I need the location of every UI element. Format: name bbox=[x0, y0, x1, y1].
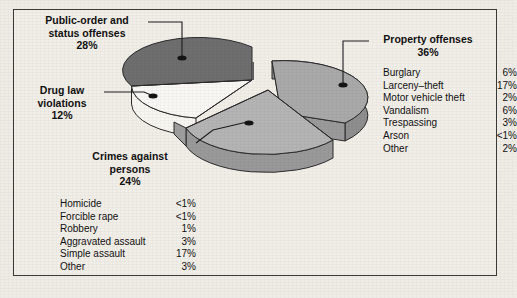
legend-persons-row-label: Homicide bbox=[60, 198, 160, 211]
label-drug-law-line1: Drug law bbox=[22, 84, 102, 97]
legend-persons-row-label: Robbery bbox=[60, 223, 160, 236]
legend-property-row-label: Larceny–theft bbox=[383, 80, 481, 93]
legend-persons-row-value: 17% bbox=[160, 248, 196, 261]
legend-property-row: Burglary6% bbox=[383, 67, 517, 80]
legend-property-body: Burglary6%Larceny–theft17%Motor vehicle … bbox=[383, 67, 517, 155]
legend-persons-row-value: <1% bbox=[160, 198, 196, 211]
legend-property-row-label: Arson bbox=[383, 130, 481, 143]
legend-persons-row-label: Other bbox=[60, 261, 160, 274]
label-public-order: Public-order and status offenses 28% bbox=[27, 14, 147, 52]
label-drug-law-pct: 12% bbox=[22, 109, 102, 122]
legend-property-row-label: Other bbox=[383, 143, 481, 156]
legend-property-row: Larceny–theft17% bbox=[383, 80, 517, 93]
legend-property-row: Trespassing3% bbox=[383, 117, 517, 130]
legend-persons-row: Simple assault17% bbox=[60, 248, 196, 261]
legend-property-row-value: 2% bbox=[481, 92, 517, 105]
legend-property-row: Vandalism6% bbox=[383, 105, 517, 118]
legend-persons-body: Homicide<1%Forcible rape<1%Robbery1%Aggr… bbox=[60, 198, 196, 274]
legend-persons-row-label: Forcible rape bbox=[60, 211, 160, 224]
legend-persons-row-value: 3% bbox=[160, 261, 196, 274]
legend-property-row-value: 6% bbox=[481, 105, 517, 118]
label-property-pct: 36% bbox=[372, 46, 484, 59]
legend-crimes-against-persons: Homicide<1%Forcible rape<1%Robbery1%Aggr… bbox=[60, 198, 196, 274]
label-drug-law: Drug law violations 12% bbox=[22, 84, 102, 122]
legend-persons-row-label: Aggravated assault bbox=[60, 236, 160, 249]
legend-property-row-value: 2% bbox=[481, 143, 517, 156]
legend-property-row-value: 3% bbox=[481, 117, 517, 130]
legend-property-row-label: Trespassing bbox=[383, 117, 481, 130]
legend-property-row-label: Burglary bbox=[383, 67, 481, 80]
legend-persons-row: Other3% bbox=[60, 261, 196, 274]
legend-property-row: Motor vehicle theft2% bbox=[383, 92, 517, 105]
label-drug-law-line2: violations bbox=[22, 97, 102, 110]
legend-persons-row: Aggravated assault3% bbox=[60, 236, 196, 249]
legend-persons-row-label: Simple assault bbox=[60, 248, 160, 261]
legend-property-offenses: Burglary6%Larceny–theft17%Motor vehicle … bbox=[383, 67, 517, 155]
legend-persons-row: Forcible rape<1% bbox=[60, 211, 196, 224]
label-crimes-persons-line2: persons bbox=[64, 163, 196, 176]
legend-persons-row-value: 1% bbox=[160, 223, 196, 236]
label-property: Property offenses 36% bbox=[372, 33, 484, 58]
label-crimes-persons: Crimes against persons 24% bbox=[64, 150, 196, 188]
label-public-order-pct: 28% bbox=[27, 39, 147, 52]
label-public-order-line1: Public-order and bbox=[27, 14, 147, 27]
legend-property-table: Burglary6%Larceny–theft17%Motor vehicle … bbox=[383, 67, 517, 155]
legend-property-row-value: 17% bbox=[481, 80, 517, 93]
legend-persons-table: Homicide<1%Forcible rape<1%Robbery1%Aggr… bbox=[60, 198, 196, 274]
label-property-line1: Property offenses bbox=[372, 33, 484, 46]
legend-property-row: Other2% bbox=[383, 143, 517, 156]
legend-property-row-value: <1% bbox=[481, 130, 517, 143]
label-public-order-line2: status offenses bbox=[27, 27, 147, 40]
leader-dot-crimes-persons bbox=[244, 121, 253, 126]
leader-dot-drug-law bbox=[148, 94, 157, 99]
legend-persons-row-value: 3% bbox=[160, 236, 196, 249]
label-crimes-persons-pct: 24% bbox=[64, 175, 196, 188]
legend-property-row-label: Motor vehicle theft bbox=[383, 92, 481, 105]
legend-persons-row-value: <1% bbox=[160, 211, 196, 224]
legend-property-row: Arson<1% bbox=[383, 130, 517, 143]
legend-property-row-value: 6% bbox=[481, 67, 517, 80]
legend-persons-row: Homicide<1% bbox=[60, 198, 196, 211]
legend-persons-row: Robbery1% bbox=[60, 223, 196, 236]
leader-dot-public-order bbox=[177, 56, 186, 61]
legend-property-row-label: Vandalism bbox=[383, 105, 481, 118]
leader-dot-property bbox=[338, 83, 347, 88]
label-crimes-persons-line1: Crimes against bbox=[64, 150, 196, 163]
